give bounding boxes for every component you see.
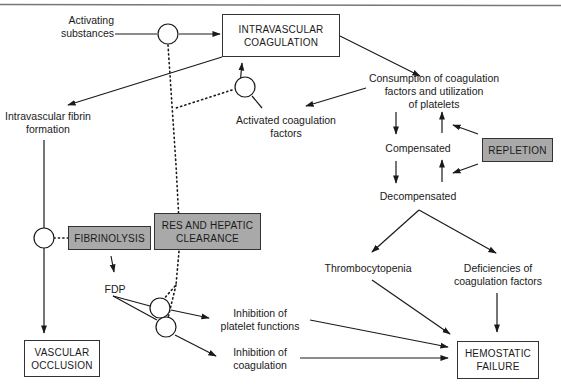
label-line: Intravascular fibrin	[0, 110, 96, 123]
edge-coagulation-circle-to-inhibition	[175, 335, 216, 356]
edge-platelet-circle-to-inhibition	[171, 310, 209, 318]
label-thrombocytopenia: Thrombocytopenia	[318, 262, 418, 275]
label-line: Inhibition of	[222, 346, 298, 359]
box-fibrinolysis: FIBRINOLYSIS	[68, 226, 151, 250]
box-hemostatic-failure: HEMOSTATICFAILURE	[457, 341, 539, 379]
label-inhibition-platelet: Inhibition of platelet functions	[212, 307, 308, 333]
control-circle-fibrinolysis	[34, 228, 54, 248]
edge-fibrinolysis-to-fdp	[111, 256, 114, 272]
box-text: VASCULAR	[31, 346, 92, 359]
control-circle-activating	[158, 24, 178, 44]
edge-coagulation-to-fibrin	[68, 57, 222, 105]
label-line: formation	[0, 123, 96, 136]
label-line: Activating	[52, 14, 114, 27]
label-line: platelet functions	[212, 320, 308, 333]
edge-repletion-lower	[453, 164, 478, 173]
edge-coagulation-to-consumption	[340, 36, 420, 76]
top-rule	[0, 5, 561, 6]
box-res-hepatic-clearance: RES AND HEPATICCLEARANCE	[154, 213, 261, 250]
label-line: Inhibition of	[212, 307, 308, 320]
label-line: Deficiencies of	[448, 262, 548, 275]
edge-repletion-upper	[453, 125, 478, 134]
label-consumption: Consumption of coagulation factors and u…	[364, 72, 504, 111]
box-intravascular-coagulation: INTRAVASCULARCOAGULATION	[222, 14, 340, 57]
label-compensated: Compensated	[380, 142, 456, 155]
box-text: OCCLUSION	[31, 359, 92, 372]
control-circle-coagulation	[156, 317, 176, 337]
label-line: FDP	[100, 283, 130, 296]
label-deficiencies: Deficiencies of coagulation factors	[448, 262, 548, 288]
label-line: Decompensated	[372, 190, 464, 203]
label-fdp: FDP	[100, 283, 130, 296]
edge-decompensated-to-thrombocytopenia	[372, 210, 419, 252]
edge-decompensated-to-deficiencies	[419, 210, 496, 253]
edge-thrombocytopenia-to-failure	[372, 280, 450, 334]
label-inhibition-coagulation: Inhibition of coagulation	[222, 346, 298, 372]
label-line: coagulation	[222, 359, 298, 372]
label-line: Activated coagulation	[226, 114, 346, 127]
label-decompensated: Decompensated	[372, 190, 464, 203]
dotted-inhibit-activating	[162, 45, 180, 301]
box-repletion: REPLETION	[482, 138, 553, 162]
dotted-inhibit-activated	[176, 90, 232, 108]
box-vascular-occlusion: VASCULAROCCLUSION	[24, 340, 100, 377]
label-line: substances	[52, 27, 114, 40]
box-text: INTRAVASCULAR	[238, 23, 323, 36]
box-text: CLEARANCE	[162, 232, 254, 245]
box-text: HEMOSTATIC	[465, 347, 531, 360]
edge-activated-factors-to-circle	[252, 96, 262, 108]
label-line: factors	[226, 127, 346, 140]
edge-consumption-to-activated	[306, 88, 366, 106]
label-line: of platelets	[364, 98, 504, 111]
box-text: FIBRINOLYSIS	[74, 232, 145, 245]
box-text: REPLETION	[488, 144, 546, 157]
edge-inhibition-platelet-to-failure	[310, 320, 448, 347]
label-activated-coagulation-factors: Activated coagulation factors	[226, 114, 346, 140]
label-line: Compensated	[380, 142, 456, 155]
label-line: Thrombocytopenia	[318, 262, 418, 275]
label-line: Consumption of coagulation	[364, 72, 504, 85]
box-text: RES AND HEPATIC	[162, 219, 254, 232]
label-intravascular-fibrin-formation: Intravascular fibrin formation	[0, 110, 96, 136]
label-line: coagulation factors	[448, 275, 548, 288]
label-line: factors and utilization	[364, 85, 504, 98]
box-text: FAILURE	[465, 360, 531, 373]
edge-fdp-to-platelet-circle	[113, 296, 150, 306]
label-activating-substances: Activating substances	[52, 14, 114, 40]
control-circle-activated-factors	[235, 77, 255, 97]
control-circle-platelet	[150, 298, 170, 318]
box-text: COAGULATION	[238, 36, 323, 49]
